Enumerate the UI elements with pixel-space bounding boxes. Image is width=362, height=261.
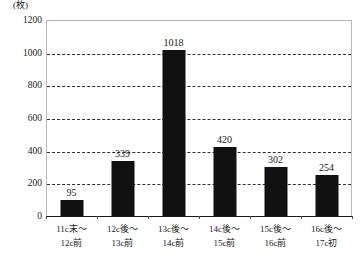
x-axis-tick-label-line: 11c末～	[46, 222, 97, 236]
x-axis-tick-mark	[301, 216, 302, 219]
bar	[315, 175, 338, 216]
x-axis-tick-label-line: 12c後～	[97, 222, 148, 236]
bars-layer: 953391018420302254	[46, 20, 352, 216]
y-axis-tick-labels: 020040060080010001200	[8, 0, 42, 261]
bar	[162, 50, 185, 216]
y-axis-tick-label: 1200	[23, 15, 42, 25]
x-axis-tick-label-line: 12c前	[46, 236, 97, 250]
bar-value-label: 95	[67, 187, 77, 198]
bar-slot: 302	[250, 20, 301, 216]
x-axis-tick-label-line: 14c後～	[199, 222, 250, 236]
x-axis-tick-label: 14c後～15c前	[199, 222, 250, 250]
x-axis-tick-label-line: 15c後～	[250, 222, 301, 236]
x-axis-tick-label-line: 15c前	[199, 236, 250, 250]
x-axis-tick-label-line: 14c前	[148, 236, 199, 250]
x-axis-tick-label-line: 13c前	[97, 236, 148, 250]
bar-slot: 254	[301, 20, 352, 216]
bar-chart: (枚) 020040060080010001200 95339101842030…	[0, 0, 362, 261]
x-axis-tick-mark	[97, 216, 98, 219]
x-axis-tick-mark	[148, 216, 149, 219]
bar-value-label: 339	[115, 148, 130, 159]
x-axis-tick-mark	[46, 216, 47, 219]
bar-slot: 95	[46, 20, 97, 216]
y-axis-tick-label: 400	[28, 146, 42, 156]
y-axis-tick-label: 0	[37, 211, 42, 221]
bar	[111, 161, 134, 216]
bar-value-label: 302	[268, 154, 283, 165]
x-axis-tick-label: 12c後～13c前	[97, 222, 148, 250]
x-axis-tick-mark	[199, 216, 200, 219]
bar-slot: 1018	[148, 20, 199, 216]
bar	[264, 167, 287, 216]
x-axis-tick-mark	[352, 216, 353, 219]
x-axis-tick-marks	[46, 216, 352, 221]
bar-value-label: 1018	[164, 37, 184, 48]
x-axis-tick-label: 15c後～16c前	[250, 222, 301, 250]
bar	[60, 200, 83, 216]
y-axis-tick-label: 600	[28, 113, 42, 123]
bar-value-label: 254	[319, 162, 334, 173]
y-axis-tick-label: 200	[28, 178, 42, 188]
x-axis-tick-label: 16c後～17c初	[301, 222, 352, 250]
bar	[213, 147, 236, 216]
bar-slot: 339	[97, 20, 148, 216]
bar-value-label: 420	[217, 134, 232, 145]
x-axis-tick-label: 13c後～14c前	[148, 222, 199, 250]
x-axis-tick-labels: 11c末～12c前12c後～13c前13c後～14c前14c後～15c前15c後…	[46, 222, 352, 258]
y-axis-tick-label: 800	[28, 80, 42, 90]
x-axis-tick-label-line: 16c後～	[301, 222, 352, 236]
y-axis-tick-label: 1000	[23, 48, 42, 58]
x-axis-tick-label-line: 13c後～	[148, 222, 199, 236]
x-axis-tick-mark	[250, 216, 251, 219]
x-axis-tick-label: 11c末～12c前	[46, 222, 97, 250]
x-axis-tick-label-line: 17c初	[301, 236, 352, 250]
bar-slot: 420	[199, 20, 250, 216]
x-axis-tick-label-line: 16c前	[250, 236, 301, 250]
